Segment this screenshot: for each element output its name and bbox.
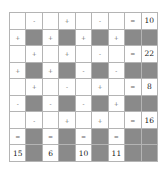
answer-input-cell[interactable]	[10, 46, 26, 63]
equals-sign: =	[125, 79, 141, 96]
blocked-cell	[26, 129, 42, 146]
blocked-cell	[26, 96, 42, 113]
answer-input-cell[interactable]	[109, 79, 125, 96]
answer-input-cell[interactable]	[10, 79, 26, 96]
blocked-cell	[142, 129, 158, 146]
blocked-cell	[125, 129, 141, 146]
result-value: 6	[43, 145, 59, 162]
blocked-cell	[92, 63, 108, 80]
equals-sign: =	[125, 13, 141, 30]
plus-operator: +	[59, 46, 75, 63]
result-value: 8	[142, 79, 158, 96]
blocked-cell	[92, 145, 108, 162]
minus-operator: -	[26, 13, 42, 30]
plus-operator: +	[43, 30, 59, 47]
equals-sign: =	[109, 129, 125, 146]
equals-sign: =	[125, 46, 141, 63]
answer-input-cell[interactable]	[109, 112, 125, 129]
result-value: 16	[142, 112, 158, 129]
blocked-cell	[142, 96, 158, 113]
blocked-cell	[125, 96, 141, 113]
answer-input-cell[interactable]	[76, 46, 92, 63]
equals-sign: =	[10, 129, 26, 146]
answer-input-cell[interactable]	[10, 13, 26, 30]
answer-input-cell[interactable]	[10, 112, 26, 129]
blocked-cell	[26, 145, 42, 162]
result-value: 11	[109, 145, 125, 162]
blocked-cell	[59, 96, 75, 113]
blocked-cell	[59, 129, 75, 146]
blocked-cell	[142, 63, 158, 80]
answer-input-cell[interactable]	[76, 79, 92, 96]
minus-operator: -	[10, 96, 26, 113]
plus-operator: +	[92, 79, 108, 96]
equals-sign: =	[125, 112, 141, 129]
math-puzzle-grid: -+-=10++++++-=22++--+-+=8---+-++=16====1…	[9, 12, 158, 162]
blocked-cell	[142, 30, 158, 47]
blocked-cell	[125, 30, 141, 47]
plus-operator: +	[76, 30, 92, 47]
blocked-cell	[92, 30, 108, 47]
answer-input-cell[interactable]	[43, 46, 59, 63]
plus-operator: +	[26, 46, 42, 63]
answer-input-cell[interactable]	[76, 112, 92, 129]
plus-operator: +	[92, 112, 108, 129]
plus-operator: +	[59, 13, 75, 30]
answer-input-cell[interactable]	[43, 79, 59, 96]
blocked-cell	[26, 30, 42, 47]
plus-operator: +	[10, 63, 26, 80]
minus-operator: -	[59, 79, 75, 96]
minus-operator: -	[76, 96, 92, 113]
blocked-cell	[59, 30, 75, 47]
answer-input-cell[interactable]	[109, 46, 125, 63]
plus-operator: +	[109, 30, 125, 47]
blocked-cell	[125, 63, 141, 80]
answer-input-cell[interactable]	[43, 13, 59, 30]
answer-input-cell[interactable]	[76, 13, 92, 30]
minus-operator: -	[76, 63, 92, 80]
minus-operator: -	[43, 96, 59, 113]
equals-sign: =	[76, 129, 92, 146]
minus-operator: -	[26, 112, 42, 129]
plus-operator: +	[26, 79, 42, 96]
result-value: 10	[142, 13, 158, 30]
minus-operator: -	[92, 46, 108, 63]
blocked-cell	[26, 63, 42, 80]
equals-sign: =	[43, 129, 59, 146]
plus-operator: +	[109, 96, 125, 113]
blocked-cell	[59, 145, 75, 162]
plus-operator: +	[59, 112, 75, 129]
plus-operator: +	[10, 30, 26, 47]
blocked-cell	[59, 63, 75, 80]
blocked-cell	[125, 145, 141, 162]
answer-input-cell[interactable]	[43, 112, 59, 129]
minus-operator: -	[92, 13, 108, 30]
result-value: 10	[76, 145, 92, 162]
blocked-cell	[92, 129, 108, 146]
blocked-cell	[92, 96, 108, 113]
answer-input-cell[interactable]	[109, 13, 125, 30]
plus-operator: +	[43, 63, 59, 80]
blocked-cell	[142, 145, 158, 162]
result-value: 15	[10, 145, 26, 162]
result-value: 22	[142, 46, 158, 63]
minus-operator: -	[109, 63, 125, 80]
